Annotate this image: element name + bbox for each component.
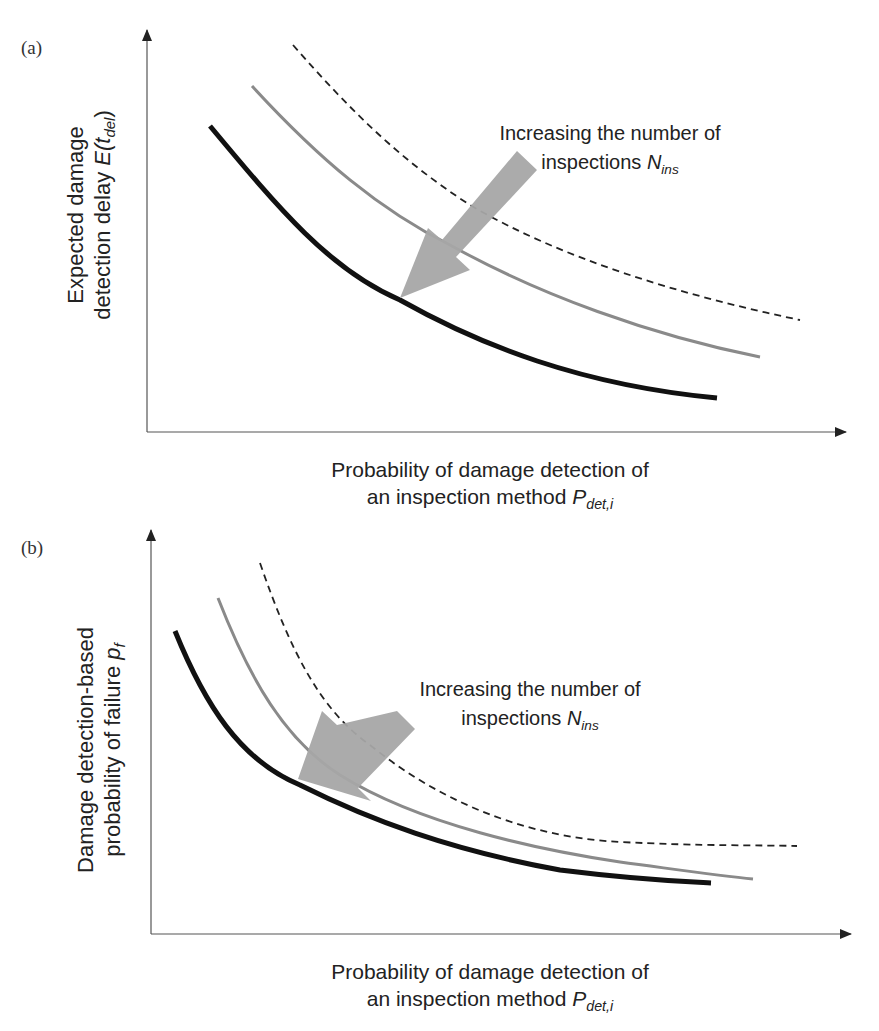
chart-a-x-axis-label: Probability of damage detection of an in… <box>280 456 700 510</box>
panel-label-b: (b) <box>21 537 43 559</box>
chart-a-y-axis-label-line2: detection delay E(tdel) <box>89 65 116 365</box>
chart-b-x-axis-label-line2: an inspection method Pdet,i <box>280 985 700 1012</box>
chart-b-y-axis-label-line1: Damage detection-based <box>72 600 99 900</box>
chart-b-y-axis-label-line2: probability of failure pf <box>99 600 126 900</box>
chart-a-annotation: Increasing the number of inspections Nin… <box>470 119 750 177</box>
chart-a-x-axis-label-line1: Probability of damage detection of <box>280 456 700 483</box>
chart-b-annotation-line2: inspections Nins <box>390 704 670 733</box>
chart-b-annotation-line1: Increasing the number of <box>390 675 670 704</box>
chart-a-x-axis-label-line2: an inspection method Pdet,i <box>280 483 700 510</box>
chart-a-y-axis-label: Expected damage detection delay E(tdel) <box>62 65 116 365</box>
chart-a-annotation-line2: inspections Nins <box>470 148 750 177</box>
chart-b-y-axis-label: Damage detection-based probability of fa… <box>72 600 126 900</box>
chart-b-curve-black <box>175 631 711 883</box>
chart-b-x-axis-label-line1: Probability of damage detection of <box>280 958 700 985</box>
chart-b-x-axis-label: Probability of damage detection of an in… <box>280 958 700 1012</box>
chart-a <box>147 30 846 432</box>
chart-b-annotation: Increasing the number of inspections Nin… <box>390 675 670 733</box>
chart-a-curve-dashed <box>293 45 800 320</box>
chart-a-y-axis-label-line1: Expected damage <box>62 65 89 365</box>
chart-a-annotation-line1: Increasing the number of <box>470 119 750 148</box>
panel-label-a: (a) <box>21 37 42 59</box>
chart-b-curve-gray <box>218 598 753 879</box>
